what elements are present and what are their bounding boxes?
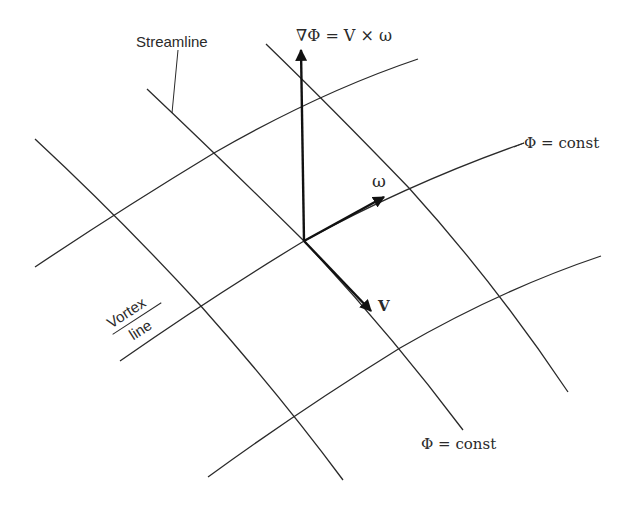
vortex-streamline-diagram (0, 0, 634, 510)
vortex-line-upper (35, 59, 418, 267)
vortex-line-lower (208, 256, 601, 477)
phi-symbol: Φ = const (524, 134, 599, 152)
streamline-left (35, 139, 343, 480)
gradient-equation-label: ∇Φ = V × ω (296, 28, 392, 44)
streamline-leader-line (172, 50, 178, 113)
grad-phi-arrow (301, 50, 304, 241)
streamline-right (266, 44, 568, 392)
omega-arrow (304, 197, 384, 241)
phi-symbol-lower: Φ = const (421, 435, 496, 453)
omega-label: ω (372, 173, 386, 190)
vortex-lines (35, 59, 601, 477)
velocity-label: V (378, 299, 390, 314)
streamline-label: Streamline (136, 34, 208, 49)
phi-const-upper-label: Φ = const (524, 135, 599, 151)
phi-const-upper-leader (514, 143, 524, 147)
phi-const-lower-label: Φ = const (421, 436, 496, 452)
streamline-middle (147, 89, 463, 430)
velocity-arrow (304, 241, 371, 311)
